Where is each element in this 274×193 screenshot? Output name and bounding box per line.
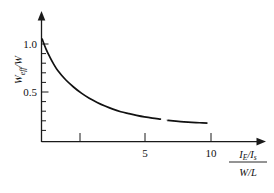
chart-figure: 1.0 0.5 5 10 Weff/W IE/Is W/L xyxy=(0,0,274,193)
y-tick-label-1.0: 1.0 xyxy=(23,38,37,50)
x-label-s-subscript: s xyxy=(254,153,257,162)
x-axis-label-denominator: W/L xyxy=(239,167,257,178)
chart-canvas: 1.0 0.5 5 10 Weff/W IE/Is W/L xyxy=(0,0,274,193)
y-label-w-denominator: W xyxy=(13,55,24,65)
y-tick-label-0.5: 0.5 xyxy=(23,86,37,98)
x-tick-label-10: 10 xyxy=(206,147,218,159)
x-tick-label-5: 5 xyxy=(142,147,148,159)
